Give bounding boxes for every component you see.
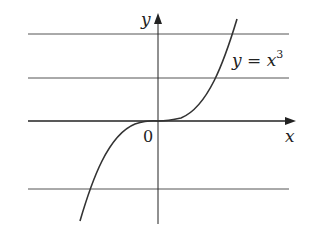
function-label-lhs: y bbox=[231, 50, 242, 70]
cubic-function-diagram: y x 0 y = x3 bbox=[0, 0, 316, 242]
y-axis-arrow-icon bbox=[154, 13, 162, 24]
function-label-exponent: 3 bbox=[276, 48, 283, 61]
function-label: y = x3 bbox=[231, 48, 283, 70]
function-label-base: x bbox=[267, 50, 277, 70]
x-axis-arrow-icon bbox=[285, 117, 296, 125]
function-label-eq: = bbox=[242, 50, 267, 70]
y-axis-label: y bbox=[140, 9, 151, 29]
x-axis-label: x bbox=[285, 126, 295, 146]
origin-label: 0 bbox=[143, 127, 153, 146]
graph-canvas: y x 0 y = x3 bbox=[0, 0, 316, 242]
